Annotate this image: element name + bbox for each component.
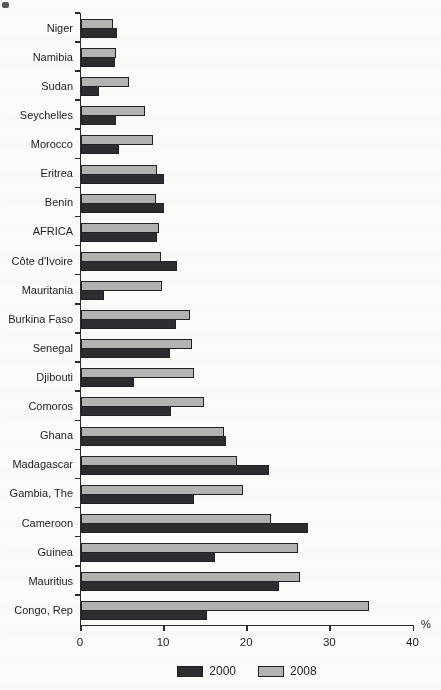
bar-2000-senegal [81,348,170,358]
category-label: Gambia, The [0,487,73,499]
category-label: Benin [0,196,73,208]
bar-group-6 [81,188,414,217]
legend-label-2008: 2008 [290,664,317,678]
bar-group-13 [81,391,414,420]
x-tick-mark [163,626,165,631]
x-tick-label: 10 [148,636,178,648]
category-label: Congo, Rep [0,604,73,616]
bar-2000-namibia [81,57,115,67]
bar-group-19 [81,566,414,595]
x-tick-mark [80,626,82,631]
x-tick-label: 0 [65,636,95,648]
legend-label-2000: 2000 [209,664,236,678]
bar-2000-comoros [81,406,171,416]
bar-group-8 [81,246,414,275]
bar-group-18 [81,537,414,566]
bar-2000-ghana [81,436,226,446]
x-tick-mark [413,626,415,631]
bar-group-20 [81,595,414,624]
category-label: AFRICA [0,225,73,237]
bar-group-5 [81,159,414,188]
bar-group-4 [81,129,414,158]
bar-group-7 [81,217,414,246]
category-label: Seychelles [0,109,73,121]
bar-2000-sudan [81,86,99,96]
bar-2000-gambia-the [81,494,194,504]
x-tick-mark [329,626,331,631]
x-tick-label: 40 [398,636,428,648]
scanned-chart-page: NigerNamibiaSudanSeychellesMoroccoEritre… [0,0,441,690]
legend-swatch-2008 [258,666,284,677]
category-label: Djibouti [0,371,73,383]
category-label: Mauritius [0,575,73,587]
bar-2000-madagascar [81,465,269,475]
bar-group-14 [81,421,414,450]
legend-entry-2008: 2008 [258,664,317,678]
category-label: Sudan [0,80,73,92]
plot-area [80,13,414,626]
bar-group-1 [81,42,414,71]
bar-group-16 [81,479,414,508]
bar-group-12 [81,362,414,391]
category-label: Morocco [0,138,73,150]
bar-group-2 [81,71,414,100]
bar-group-17 [81,508,414,537]
bar-2000-niger [81,28,117,38]
x-axis-unit-label: % [421,618,431,630]
x-tick-label: 30 [314,636,344,648]
bar-2000-congo-rep [81,610,207,620]
bar-2000-cameroon [81,523,308,533]
category-label: Comoros [0,400,73,412]
bar-2000-morocco [81,144,119,154]
bar-2000-eritrea [81,174,164,184]
category-label: Namibia [0,51,73,63]
bar-2000-mauritius [81,581,279,591]
category-label: Ghana [0,429,73,441]
bar-group-11 [81,333,414,362]
category-label: Guinea [0,546,73,558]
category-label: Côte d'Ivoire [0,255,73,267]
category-label: Eritrea [0,167,73,179]
bar-group-10 [81,304,414,333]
bar-2000-guinea [81,552,215,562]
scan-artifact [2,2,9,8]
bar-2000-djibouti [81,377,134,387]
bar-2000-c-te-d-ivoire [81,261,177,271]
legend-swatch-2000 [177,666,203,677]
x-tick-label: 20 [231,636,261,648]
category-label: Burkina Faso [0,313,73,325]
bar-group-15 [81,450,414,479]
category-label: Senegal [0,342,73,354]
category-label: Madagascar [0,458,73,470]
x-tick-mark [246,626,248,631]
bar-group-3 [81,100,414,129]
category-label: Niger [0,22,73,34]
bar-2000-benin [81,203,164,213]
category-label: Cameroon [0,517,73,529]
bar-2000-burkina-faso [81,319,176,329]
bar-2000-africa [81,232,157,242]
bar-2000-seychelles [81,115,116,125]
bar-group-9 [81,275,414,304]
bar-2000-mauritania [81,290,104,300]
legend: 2000 2008 [80,664,414,678]
category-label: Mauritania [0,284,73,296]
bar-group-0 [81,13,414,42]
legend-entry-2000: 2000 [177,664,236,678]
